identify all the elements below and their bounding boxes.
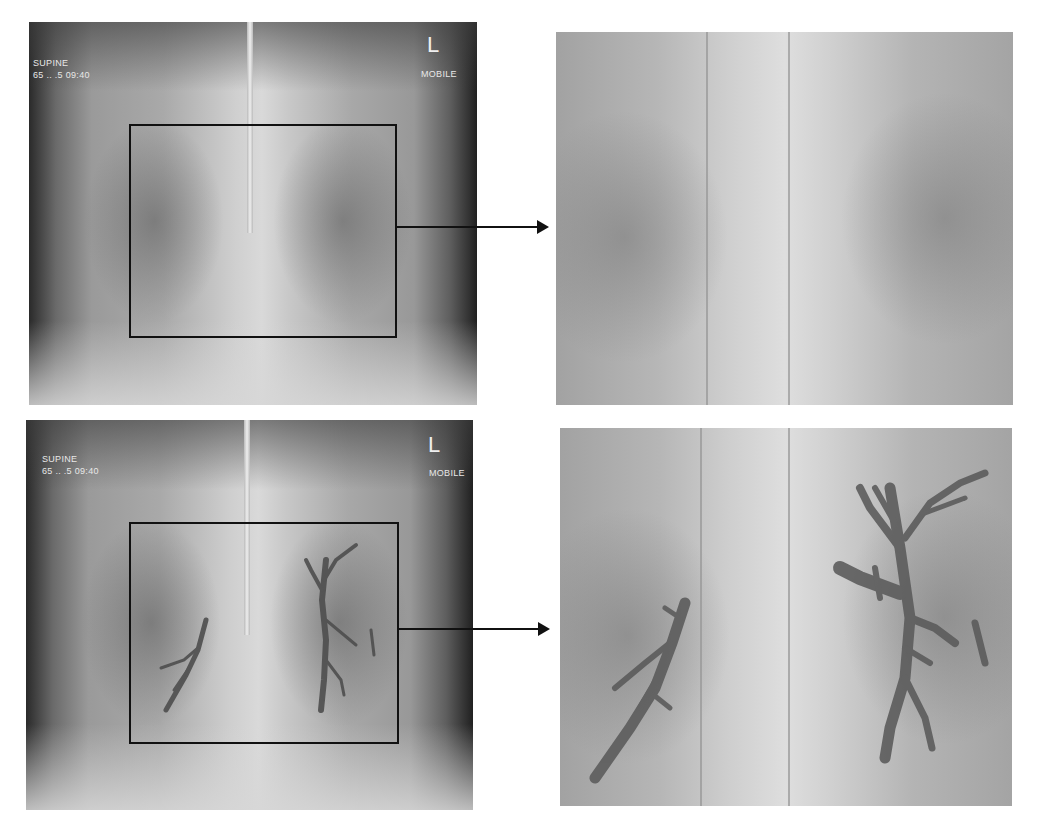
tube-line	[788, 32, 790, 405]
roi-box	[129, 124, 397, 338]
tube-line	[706, 32, 708, 405]
side-marker-L: L	[427, 32, 439, 58]
xray-bottom-left: SUPINE 65 .. .5 09:40 L MOBILE	[26, 420, 473, 810]
clavicle-shading	[29, 22, 477, 91]
arrow-right-top	[397, 226, 547, 228]
modality-label: MOBILE	[421, 69, 457, 80]
magnified-roi-bottom	[560, 428, 1012, 806]
xray-top-left: SUPINE 65 .. .5 09:40 L MOBILE	[29, 22, 477, 405]
air-bronchogram-annotation-magnified	[560, 428, 1012, 806]
date-time-label: 65 .. .5 09:40	[33, 70, 90, 81]
magnified-roi-top	[556, 32, 1013, 405]
arrow-right-bottom	[398, 628, 548, 630]
roi-box	[129, 522, 399, 744]
position-label: SUPINE	[33, 58, 68, 69]
